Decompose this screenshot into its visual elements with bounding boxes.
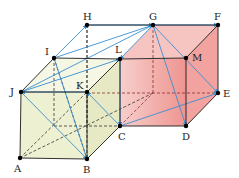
- vertex-J: [19, 90, 23, 94]
- vertex-E: [216, 91, 220, 95]
- vertex-K: [85, 90, 89, 94]
- vertex-I: [52, 56, 56, 60]
- label-J: J: [9, 86, 14, 97]
- vertex-C: [118, 124, 122, 128]
- label-M: M: [192, 52, 202, 63]
- vertex-F: [216, 23, 220, 27]
- vertex-M: [184, 56, 188, 60]
- vertex-B: [85, 157, 89, 161]
- label-I: I: [45, 46, 49, 57]
- label-F: F: [214, 11, 221, 22]
- label-H: H: [83, 11, 92, 22]
- two-cube-diagram: ABCDEFGHIJKLM: [0, 0, 239, 178]
- label-L: L: [115, 44, 122, 55]
- label-E: E: [223, 88, 230, 99]
- vertex-A: [18, 156, 22, 160]
- label-K: K: [76, 80, 84, 91]
- label-A: A: [13, 163, 22, 174]
- vertex-H: [85, 23, 89, 27]
- label-B: B: [83, 164, 90, 175]
- vector-IH: [54, 25, 87, 58]
- vertex-D: [184, 124, 188, 128]
- label-G: G: [149, 11, 157, 22]
- vertex-G: [151, 23, 155, 27]
- vertex-L: [118, 57, 122, 61]
- label-D: D: [182, 131, 190, 142]
- label-C: C: [118, 131, 126, 142]
